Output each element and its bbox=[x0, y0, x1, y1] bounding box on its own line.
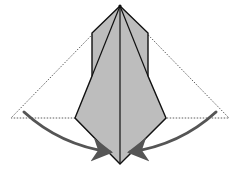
apex-point bbox=[118, 4, 121, 7]
origami-diagram bbox=[0, 0, 239, 173]
diagram-canvas bbox=[0, 0, 239, 173]
